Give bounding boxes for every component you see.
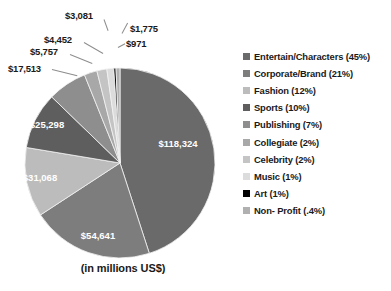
legend-swatch-icon bbox=[243, 70, 250, 77]
legend-item[interactable]: Celebrity (2%) bbox=[243, 151, 391, 168]
legend-item[interactable]: Sports (10%) bbox=[243, 99, 391, 116]
legend-swatch-icon bbox=[243, 53, 250, 60]
legend-item[interactable]: Art (1%) bbox=[243, 185, 391, 202]
legend-swatch-icon bbox=[243, 207, 250, 214]
legend-item-label: Fashion (12%) bbox=[254, 85, 316, 96]
slice-callout-label: $971 bbox=[126, 38, 146, 49]
slice-callout-label: $17,513 bbox=[8, 63, 41, 74]
pie-chart-area: $118,324$54,641$31,068$25,298 $17,513$5,… bbox=[0, 0, 246, 291]
chart-root: $118,324$54,641$31,068$25,298 $17,513$5,… bbox=[0, 0, 391, 291]
legend-item-label: Corporate/Brand (21%) bbox=[254, 68, 353, 79]
slice-value-label: $31,068 bbox=[23, 172, 57, 183]
slice-value-label: $118,324 bbox=[158, 138, 198, 149]
legend-swatch-icon bbox=[243, 104, 250, 111]
legend-swatch-icon bbox=[243, 139, 250, 146]
slice-callout-label: $1,775 bbox=[130, 23, 158, 34]
legend-item-label: Entertain/Characters (45%) bbox=[254, 51, 370, 62]
legend-item-label: Sports (10%) bbox=[254, 102, 310, 113]
legend-item-label: Publishing (7%) bbox=[254, 119, 322, 130]
legend-item[interactable]: Entertain/Characters (45%) bbox=[243, 48, 391, 65]
legend-item[interactable]: Corporate/Brand (21%) bbox=[243, 65, 391, 82]
legend-item-label: Art (1%) bbox=[254, 188, 289, 199]
legend-item-label: Non- Profit (.4%) bbox=[254, 205, 325, 216]
legend-item-label: Collegiate (2%) bbox=[254, 137, 319, 148]
pie-svg: $118,324$54,641$31,068$25,298 bbox=[0, 0, 246, 291]
slice-callout-label: $5,757 bbox=[30, 46, 58, 57]
slice-value-label: $54,641 bbox=[81, 230, 116, 241]
legend-item[interactable]: Non- Profit (.4%) bbox=[243, 202, 391, 219]
cropped-title-text bbox=[232, 0, 391, 4]
legend-swatch-icon bbox=[243, 121, 250, 128]
legend-swatch-icon bbox=[243, 87, 250, 94]
slice-callout-label: $3,081 bbox=[65, 10, 93, 21]
legend-item-label: Music (1%) bbox=[254, 171, 301, 182]
legend-item[interactable]: Music (1%) bbox=[243, 168, 391, 185]
slice-callout-label: $4,452 bbox=[44, 34, 72, 45]
legend-swatch-icon bbox=[243, 190, 250, 197]
legend-item[interactable]: Publishing (7%) bbox=[243, 116, 391, 133]
chart-caption: (in millions US$) bbox=[0, 262, 246, 274]
pie-slices bbox=[25, 68, 215, 258]
legend-item-label: Celebrity (2%) bbox=[254, 154, 314, 165]
legend-item[interactable]: Fashion (12%) bbox=[243, 82, 391, 99]
legend-swatch-icon bbox=[243, 156, 250, 163]
legend-swatch-icon bbox=[243, 173, 250, 180]
chart-legend: Entertain/Characters (45%)Corporate/Bran… bbox=[243, 48, 391, 219]
slice-value-label: $25,298 bbox=[30, 119, 64, 130]
legend-item[interactable]: Collegiate (2%) bbox=[243, 133, 391, 150]
